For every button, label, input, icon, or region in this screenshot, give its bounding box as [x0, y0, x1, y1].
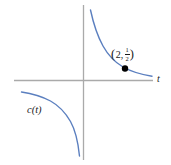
curve-branch-negative — [22, 92, 80, 156]
curve-branch-positive — [91, 10, 153, 76]
fraction-numerator: 1 — [125, 47, 129, 54]
function-graph-figure: t c(t) ( 2 , 1 2 ) — [0, 0, 171, 165]
point-label-fraction: 1 2 — [125, 47, 130, 62]
point-marker — [122, 65, 128, 71]
curve-label: c(t) — [27, 105, 42, 116]
point-coordinate-label: ( 2 , 1 2 ) — [111, 47, 134, 62]
graph-canvas — [0, 0, 171, 165]
fraction-denominator: 2 — [125, 55, 129, 62]
t-axis-label: t — [157, 74, 160, 84]
point-label-close-paren: ) — [130, 48, 134, 61]
point-label-group: ( 2 , 1 2 ) — [111, 47, 134, 62]
